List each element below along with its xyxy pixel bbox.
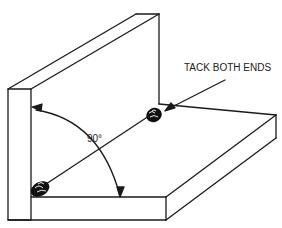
callout-label: TACK BOTH ENDS bbox=[184, 62, 271, 73]
arrowhead-down-icon bbox=[117, 187, 124, 197]
horizontal-plate bbox=[8, 104, 276, 220]
angle-label: 90° bbox=[87, 133, 102, 144]
tack-weld-top bbox=[144, 105, 165, 125]
callout-leader bbox=[168, 80, 225, 109]
weld-diagram: TACK BOTH ENDS 90° bbox=[0, 0, 282, 228]
weld-joint-line bbox=[40, 114, 152, 188]
angle-arc bbox=[36, 110, 120, 196]
diagram-canvas: TACK BOTH ENDS 90° bbox=[0, 0, 282, 228]
vertical-plate bbox=[8, 14, 159, 220]
